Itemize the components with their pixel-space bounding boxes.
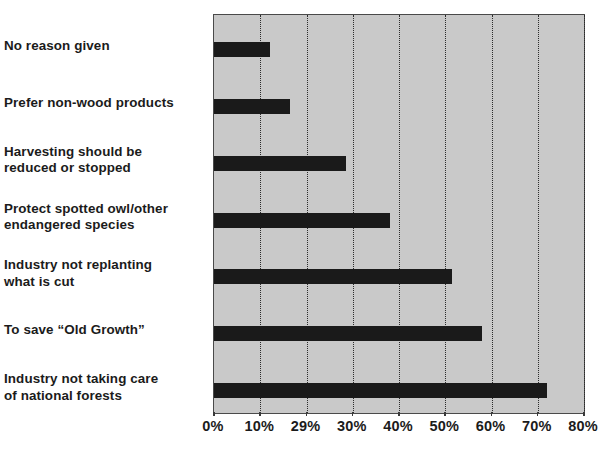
x-tick-label: 60% xyxy=(476,418,506,434)
bar xyxy=(214,326,482,341)
tick-mark xyxy=(444,412,446,416)
tick-mark xyxy=(259,412,261,416)
bar xyxy=(214,99,290,114)
category-label: To save “Old Growth” xyxy=(4,322,193,339)
tick-mark xyxy=(213,412,215,416)
category-label: Harvesting should be reduced or stopped xyxy=(4,144,193,177)
gridline xyxy=(492,15,493,413)
x-tick-label: 40% xyxy=(383,418,413,434)
tick-mark xyxy=(352,412,354,416)
x-tick-label: 10% xyxy=(244,418,274,434)
x-axis-tick-labels: 0%10%29%30%40%50%60%70%80% xyxy=(0,418,609,444)
bar xyxy=(214,383,547,398)
plot-inner xyxy=(214,15,584,413)
bar xyxy=(214,42,270,57)
gridline xyxy=(584,15,585,413)
category-label: Protect spotted owl/other endangered spe… xyxy=(4,201,193,234)
tick-mark xyxy=(306,412,308,416)
category-label: Industry not replanting what is cut xyxy=(4,257,193,290)
tick-mark xyxy=(537,412,539,416)
x-tick-label: 30% xyxy=(337,418,367,434)
bar xyxy=(214,269,452,284)
x-tick-label: 50% xyxy=(429,418,459,434)
category-label: Prefer non-wood products xyxy=(4,95,193,112)
gridline xyxy=(399,15,400,413)
x-tick-label: 80% xyxy=(568,418,598,434)
plot-area xyxy=(213,14,585,414)
bar-chart: No reason givenPrefer non-wood productsH… xyxy=(0,0,609,457)
gridline xyxy=(445,15,446,413)
bar xyxy=(214,213,390,228)
category-label: Industry not taking care of national for… xyxy=(4,371,193,404)
tick-mark xyxy=(491,412,493,416)
x-tick-label: 70% xyxy=(522,418,552,434)
x-tick-label: 0% xyxy=(202,418,223,434)
category-label: No reason given xyxy=(4,38,193,55)
gridline xyxy=(538,15,539,413)
tick-mark xyxy=(398,412,400,416)
category-axis-labels: No reason givenPrefer non-wood productsH… xyxy=(0,14,205,412)
bar xyxy=(214,156,346,171)
tick-mark xyxy=(583,412,585,416)
x-tick-label: 29% xyxy=(291,418,321,434)
